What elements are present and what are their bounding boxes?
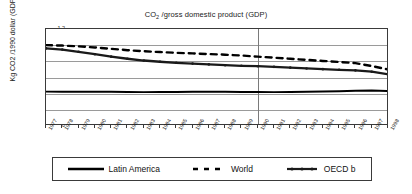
series-marker: [289, 66, 292, 69]
x-axis-tick-mark: [354, 125, 355, 128]
series-marker: [224, 64, 227, 67]
legend-swatch-solid: [68, 164, 104, 174]
series-marker: [240, 64, 243, 67]
legend-item-latin-america: Latin America: [68, 164, 160, 174]
chart-title-prefix: CO: [145, 10, 156, 19]
series-lines: [46, 29, 388, 125]
legend-item-world: World: [191, 164, 253, 174]
x-axis-tick-mark: [371, 125, 372, 128]
legend-label-latin-america: Latin America: [108, 164, 160, 174]
series-marker: [77, 51, 80, 54]
x-axis-tick-label: 1998: [389, 118, 400, 131]
series-marker: [370, 70, 373, 73]
chart-title: CO2 /gross domestic product (GDP): [0, 10, 412, 19]
series-marker: [142, 59, 145, 62]
legend-label-oecd: OECD b: [324, 164, 356, 174]
series-marker: [273, 66, 276, 69]
series-marker: [191, 62, 194, 65]
x-axis-tick-mark: [257, 125, 258, 128]
chart-legend: Latin America World OECD b: [52, 157, 372, 181]
series-marker: [94, 53, 97, 56]
series-marker: [110, 55, 113, 58]
legend-swatch-thick-marker: [284, 164, 320, 174]
series-line: [46, 90, 388, 92]
series-marker: [338, 69, 341, 72]
x-axis-tick-mark: [126, 125, 127, 128]
series-marker: [208, 63, 211, 66]
legend-item-oecd: OECD b: [284, 164, 356, 174]
x-axis-tick-mark: [306, 125, 307, 128]
series-marker: [61, 48, 64, 51]
series-marker: [305, 67, 308, 70]
series-marker: [159, 60, 162, 63]
x-axis-tick-mark: [240, 125, 241, 128]
series-marker: [354, 69, 357, 72]
chart-title-subscript: 2: [156, 14, 159, 20]
x-axis-tick-mark: [192, 125, 193, 128]
legend-swatch-dashed: [191, 164, 227, 174]
series-marker: [322, 68, 325, 71]
plot-area: [45, 28, 388, 125]
y-axis-label: Kg CO2 /1990 dollar (GDP) *: [9, 0, 16, 93]
series-marker: [126, 57, 129, 60]
legend-label-world: World: [231, 164, 253, 174]
x-axis-tick-mark: [78, 125, 79, 128]
chart-title-suffix: /gross domestic product (GDP): [159, 10, 267, 19]
series-marker: [175, 61, 178, 64]
series-marker: [256, 65, 259, 68]
chart-figure: CO2 /gross domestic product (GDP) Kg CO2…: [0, 0, 412, 194]
x-axis-tick-mark: [143, 125, 144, 128]
